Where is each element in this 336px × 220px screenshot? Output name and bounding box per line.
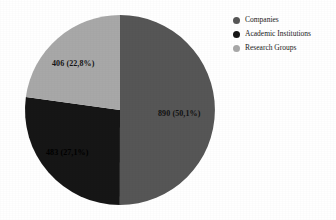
circle-marker-icon [233, 45, 240, 52]
pie-plot-area: 890 (50,1%) 483 (27,1%) 406 (22,8%) [0, 0, 228, 220]
slice-data-label-academic-institutions: 483 (27,1%) [46, 149, 88, 157]
circle-marker-icon [233, 31, 240, 38]
legend-item-label: Academic Institutions [245, 30, 311, 38]
legend-item-label: Companies [245, 16, 279, 24]
legend-item-research-groups[interactable]: Research Groups [233, 41, 333, 55]
legend-item-companies[interactable]: Companies [233, 13, 333, 27]
pie-chart-figure: 890 (50,1%) 483 (27,1%) 406 (22,8%) Comp… [0, 0, 336, 220]
slice-data-label-companies: 890 (50,1%) [158, 110, 200, 118]
slice-data-label-research-groups: 406 (22,8%) [52, 60, 94, 68]
chart-legend: Companies Academic Institutions Research… [233, 13, 333, 55]
circle-marker-icon [233, 17, 240, 24]
legend-item-label: Research Groups [245, 44, 296, 52]
legend-item-academic-institutions[interactable]: Academic Institutions [233, 27, 333, 41]
